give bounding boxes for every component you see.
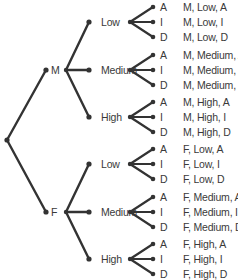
- tree-node-dot: [86, 256, 91, 261]
- leaf-node-label: D: [160, 79, 167, 91]
- tree-node-dot: [151, 83, 156, 88]
- tree-edge: [7, 140, 46, 212]
- leaf-node-label: I: [160, 111, 163, 123]
- level2-node-label: High: [101, 253, 122, 265]
- level2-node-label: High: [101, 111, 122, 123]
- tree-edge: [130, 244, 153, 259]
- outcome-label: M, High, D: [183, 126, 231, 138]
- tree-node-dot: [86, 19, 91, 24]
- tree-node-dot: [151, 20, 156, 25]
- tree-edge: [130, 117, 153, 132]
- outcome-label: F, Low, D: [183, 173, 224, 185]
- leaf-node-label: D: [160, 268, 167, 280]
- outcome-label: F, Medium, A: [183, 191, 238, 203]
- outcome-label: M, High, A: [183, 96, 229, 108]
- tree-edge: [7, 70, 46, 140]
- tree-node-dot: [43, 67, 48, 72]
- tree-node-dot: [151, 210, 156, 215]
- outcome-label: M, Medium, D: [183, 79, 238, 91]
- tree-node-dot: [86, 161, 91, 166]
- outcome-label: M, Medium, I: [183, 64, 238, 76]
- tree-node-dot: [151, 130, 156, 135]
- tree-node-dot: [151, 177, 156, 182]
- tree-edge: [130, 102, 153, 117]
- tree-node-dot: [151, 225, 156, 230]
- leaf-node-label: I: [160, 64, 163, 76]
- tree-edge: [130, 164, 153, 179]
- tree-node-dot: [43, 209, 48, 214]
- outcome-label: F, High, A: [183, 238, 226, 250]
- tree-node-dot: [151, 53, 156, 58]
- outcome-label: M, High, I: [183, 111, 226, 123]
- tree-node-dot: [151, 35, 156, 40]
- outcome-label: F, Medium, D: [183, 221, 238, 233]
- leaf-node-label: A: [160, 143, 167, 155]
- level1-node-label: M: [51, 64, 60, 76]
- outcome-label: F, Medium, I: [183, 206, 238, 218]
- tree-node-dot: [86, 67, 91, 72]
- level2-node-label: Medium: [101, 64, 137, 76]
- tree-node-dot: [86, 114, 91, 119]
- leaf-node-label: A: [160, 96, 167, 108]
- leaf-node-label: I: [160, 206, 163, 218]
- tree-edge: [130, 259, 153, 274]
- outcome-label: M, Low, I: [183, 16, 223, 28]
- leaf-node-label: D: [160, 31, 167, 43]
- tree-node-dot: [151, 100, 156, 105]
- tree-node-dot: [151, 162, 156, 167]
- tree-node-dot: [151, 272, 156, 277]
- tree-edge: [130, 149, 153, 164]
- outcome-label: F, Low, A: [183, 143, 223, 155]
- level2-node-label: Medium: [101, 206, 137, 218]
- leaf-node-label: A: [160, 1, 167, 13]
- leaf-node-label: A: [160, 238, 167, 250]
- tree-edge: [66, 164, 89, 212]
- tree-node-dot: [151, 68, 156, 73]
- tree-edge: [130, 7, 153, 22]
- tree-node-dot: [151, 5, 156, 10]
- tree-node-dot: [151, 257, 156, 262]
- outcome-label: F, Low, I: [183, 158, 220, 170]
- level2-node-label: Low: [101, 158, 120, 170]
- tree-edge: [66, 22, 89, 70]
- tree-node-dot: [151, 147, 156, 152]
- leaf-node-label: D: [160, 173, 167, 185]
- leaf-node-label: I: [160, 16, 163, 28]
- tree-node-dot: [151, 115, 156, 120]
- leaf-node-label: I: [160, 158, 163, 170]
- leaf-node-label: D: [160, 126, 167, 138]
- tree-edge: [66, 212, 89, 259]
- tree-node-dot: [151, 242, 156, 247]
- leaf-node-label: A: [160, 49, 167, 61]
- outcome-label: F, High, I: [183, 253, 222, 265]
- level1-node-label: F: [51, 206, 57, 218]
- outcome-label: M, Low, D: [183, 31, 228, 43]
- outcome-label: M, Low, A: [183, 1, 227, 13]
- tree-edge: [66, 70, 89, 117]
- tree-node-dot: [86, 209, 91, 214]
- tree-edge: [130, 22, 153, 37]
- leaf-node-label: I: [160, 253, 163, 265]
- leaf-node-label: D: [160, 221, 167, 233]
- leaf-node-label: A: [160, 191, 167, 203]
- outcome-label: F, High, D: [183, 268, 227, 280]
- level2-node-label: Low: [101, 16, 120, 28]
- tree-node-dot: [151, 195, 156, 200]
- outcome-label: M, Medium, A: [183, 49, 238, 61]
